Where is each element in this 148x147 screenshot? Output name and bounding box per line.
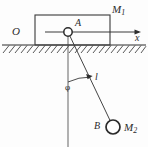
x-axis-arrow: [45, 30, 141, 35]
label-block-mass-symbol: M: [112, 3, 121, 15]
angle-arc: [68, 74, 93, 82]
label-pivot-point: A: [75, 18, 81, 28]
pendulum-bob-b: [106, 120, 120, 134]
label-bob-point: B: [94, 121, 100, 131]
label-rod-length: l: [95, 72, 98, 82]
label-block-mass-subscript: 1: [121, 8, 125, 17]
pivot-joint-a: [64, 28, 72, 36]
label-block-mass: M1: [112, 4, 125, 17]
label-bob-mass-subscript: 2: [133, 126, 137, 135]
physics-diagram-figure: M1 A O x φ l B M2: [0, 0, 148, 147]
label-axis-x: x: [135, 33, 139, 43]
label-bob-mass-symbol: M: [124, 121, 133, 133]
label-bob-mass: M2: [124, 122, 137, 135]
label-angle-phi: φ: [65, 83, 70, 92]
pendulum-rod: [68, 32, 112, 125]
label-origin: O: [12, 26, 20, 37]
